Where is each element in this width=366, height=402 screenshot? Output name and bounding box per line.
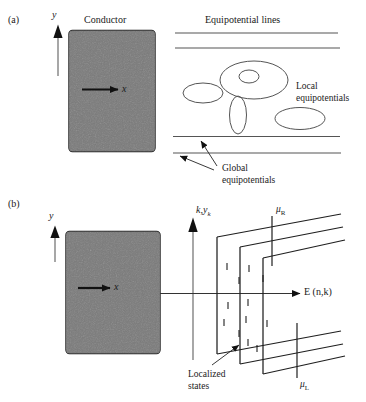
ellipse-inner-small <box>239 70 259 83</box>
conductor-block-b <box>66 232 160 354</box>
ellipse-large <box>220 61 288 99</box>
localized-states-label-line2: states <box>188 381 209 392</box>
ky-axis-label-subscript: k <box>207 210 210 218</box>
ky-axis-b <box>188 218 197 361</box>
mu-left-label: μL <box>300 379 309 392</box>
ellipse-vertical <box>230 96 247 134</box>
y-axis-arrow-a <box>53 25 62 77</box>
global-equipotentials-label-line1: Global <box>222 163 248 174</box>
figure-container: (a) Conductor y x Equipotential lines Lo… <box>0 0 366 402</box>
mu-right-subscript: R <box>281 209 286 217</box>
figure-artwork <box>0 0 366 402</box>
panel-tag-b: (b) <box>8 198 20 210</box>
global-equipotentials-label-line2: equipotentials <box>222 175 275 186</box>
ellipse-lower-right <box>275 108 325 130</box>
x-axis-label-b: x <box>114 281 118 293</box>
localized-states-pointer <box>212 345 239 365</box>
band-level-1 <box>217 214 341 354</box>
local-equipotentials-label-line1: Local <box>296 81 318 92</box>
ky-axis-label-text: k,y <box>196 204 207 215</box>
conductor-label-a: Conductor <box>84 14 126 26</box>
y-axis-arrow-b <box>50 226 59 263</box>
localized-state-ticks <box>224 263 267 352</box>
local-equipotentials-label-line2: equipotentials <box>296 93 349 104</box>
conductor-block-a <box>69 31 155 152</box>
ky-axis-label: k,yk <box>196 204 211 218</box>
y-axis-label-b: y <box>49 210 53 222</box>
localized-states-label-line1: Localized <box>188 369 225 380</box>
equipotential-lines-title: Equipotential lines <box>205 14 280 26</box>
y-axis-label-a: y <box>52 9 56 21</box>
band-level-3 <box>263 240 345 374</box>
energy-axis-label: E (n,k) <box>304 286 332 298</box>
ellipse-left <box>183 83 223 103</box>
global-equipotential-pointers <box>180 141 217 170</box>
mu-left-subscript: L <box>305 384 309 392</box>
x-axis-label-a: x <box>122 83 126 95</box>
mu-right-label: μR <box>276 204 285 217</box>
panel-tag-a: (a) <box>8 14 19 26</box>
